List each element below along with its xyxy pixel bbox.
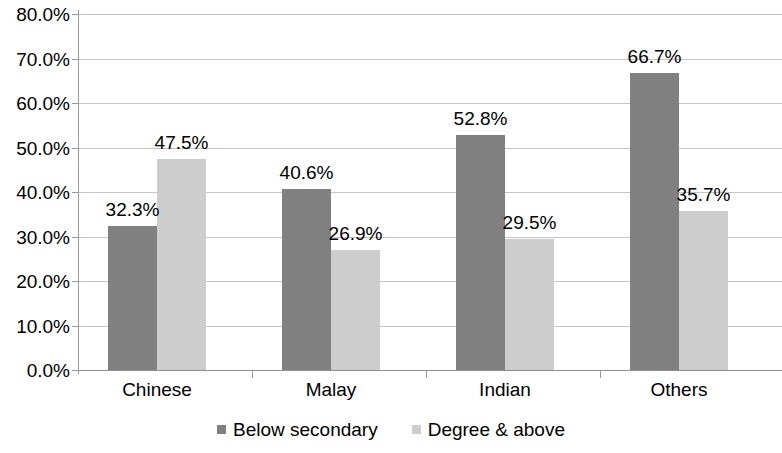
- bar-value-label: 26.9%: [316, 224, 396, 243]
- x-axis-category-label: Malay: [261, 379, 401, 401]
- gridline: [78, 14, 782, 15]
- bar: [679, 211, 728, 370]
- bar: [630, 73, 679, 370]
- y-axis-tick-label: 80.0%: [2, 5, 70, 24]
- x-axis-tick: [252, 370, 253, 378]
- y-axis-tick: [72, 326, 79, 327]
- bar: [331, 250, 380, 370]
- chart-legend: Below secondaryDegree & above: [0, 420, 782, 439]
- legend-swatch-icon: [412, 425, 421, 434]
- y-axis-tick: [72, 281, 79, 282]
- y-axis-tick: [72, 370, 79, 371]
- bar-value-label: 35.7%: [664, 185, 744, 204]
- bar-value-label: 47.5%: [142, 133, 222, 152]
- y-axis-tick-label: 10.0%: [2, 316, 70, 335]
- bar: [108, 226, 157, 370]
- y-axis-tick-label: 50.0%: [2, 138, 70, 157]
- y-axis-tick-label: 20.0%: [2, 272, 70, 291]
- bar: [157, 159, 206, 370]
- y-axis-tick: [72, 103, 79, 104]
- bar-value-label: 66.7%: [615, 47, 695, 66]
- y-axis-tick: [72, 148, 79, 149]
- x-axis-category-label: Others: [609, 379, 749, 401]
- bar-chart: 0.0%10.0%20.0%30.0%40.0%50.0%60.0%70.0%8…: [0, 0, 782, 453]
- legend-label: Below secondary: [233, 420, 378, 439]
- y-axis-tick-label: 70.0%: [2, 49, 70, 68]
- legend-item[interactable]: Degree & above: [412, 420, 565, 439]
- bar: [456, 135, 505, 370]
- x-axis-category-label: Indian: [435, 379, 575, 401]
- bar: [505, 239, 554, 370]
- y-axis-tick: [72, 59, 79, 60]
- y-axis-tick-label: 60.0%: [2, 94, 70, 113]
- legend-item[interactable]: Below secondary: [217, 420, 378, 439]
- y-axis-tick: [72, 14, 79, 15]
- bar-value-label: 40.6%: [267, 163, 347, 182]
- y-axis-tick-label: 30.0%: [2, 227, 70, 246]
- y-axis-tick-label: 0.0%: [2, 361, 70, 380]
- x-axis-tick: [600, 370, 601, 378]
- y-axis-tick: [72, 237, 79, 238]
- x-axis-tick: [426, 370, 427, 378]
- y-axis-tick-label: 40.0%: [2, 183, 70, 202]
- x-axis-category-label: Chinese: [87, 379, 227, 401]
- bar-value-label: 52.8%: [441, 109, 521, 128]
- y-axis-labels: 0.0%10.0%20.0%30.0%40.0%50.0%60.0%70.0%8…: [0, 0, 70, 453]
- legend-swatch-icon: [217, 425, 226, 434]
- bar-value-label: 29.5%: [490, 213, 570, 232]
- bar: [282, 189, 331, 370]
- legend-label: Degree & above: [428, 420, 565, 439]
- x-axis-line: [74, 370, 782, 371]
- bar-value-label: 32.3%: [93, 200, 173, 219]
- y-axis-tick: [72, 192, 79, 193]
